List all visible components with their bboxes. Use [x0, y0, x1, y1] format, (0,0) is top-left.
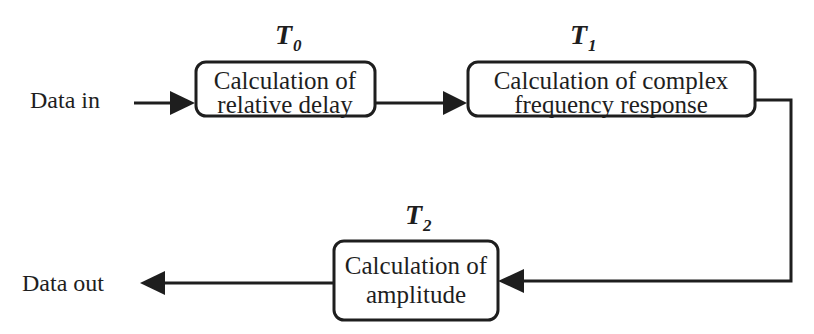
stage-label-t2: T2	[405, 199, 432, 235]
block-text-line-1: Calculation of	[345, 252, 488, 279]
block-complex-frequency-response: T1 Calculation of complex frequency resp…	[468, 19, 755, 118]
block-amplitude: T2 Calculation of amplitude	[334, 199, 498, 320]
arrowhead-icon	[498, 269, 524, 293]
block-text-line-2: amplitude	[366, 281, 466, 308]
arrowhead-icon	[443, 91, 467, 115]
signal-processing-flow-diagram: Data in T0 Calculation of relative delay…	[0, 0, 814, 334]
data-out-label: Data out	[22, 270, 104, 296]
arrow-frequency-to-amplitude	[498, 100, 791, 293]
arrow-delay-to-frequency	[375, 91, 467, 115]
data-in-label: Data in	[30, 87, 100, 113]
connector-line	[520, 100, 791, 281]
block-relative-delay: T0 Calculation of relative delay	[196, 19, 375, 118]
output-arrowhead-icon	[140, 271, 165, 295]
block-text-line-2: frequency response	[514, 91, 708, 118]
block-text-line-1: Calculation of	[214, 67, 357, 94]
stage-label-t1: T1	[570, 19, 597, 55]
input-arrowhead-icon	[170, 91, 195, 115]
block-text-line-2: relative delay	[217, 91, 353, 118]
stage-label-t0: T0	[275, 19, 302, 55]
block-text-line-1: Calculation of complex	[494, 67, 729, 94]
output-arrow	[140, 271, 334, 295]
input-arrow	[134, 91, 195, 115]
